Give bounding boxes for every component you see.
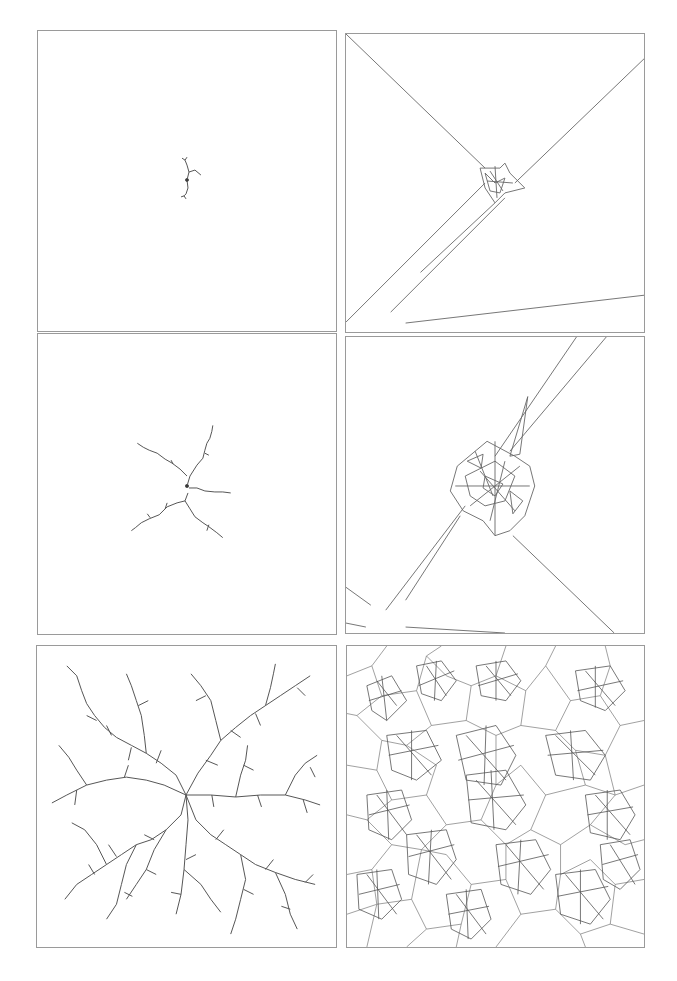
voronoi-panel-stage-3 bbox=[346, 645, 645, 948]
dla-panel-stage-2 bbox=[37, 333, 337, 635]
dla-panel-stage-3 bbox=[36, 645, 337, 948]
voronoi-medium-graphic bbox=[346, 337, 644, 633]
dla-cluster-full-graphic bbox=[37, 646, 336, 947]
voronoi-panel-stage-2 bbox=[345, 336, 645, 634]
voronoi-sparse-graphic bbox=[346, 34, 644, 332]
dla-cluster-small-graphic bbox=[38, 31, 336, 331]
dla-panel-stage-1 bbox=[37, 30, 337, 332]
voronoi-dense-graphic bbox=[347, 646, 644, 947]
voronoi-panel-stage-1 bbox=[345, 33, 645, 333]
dla-cluster-medium-graphic bbox=[38, 334, 336, 634]
